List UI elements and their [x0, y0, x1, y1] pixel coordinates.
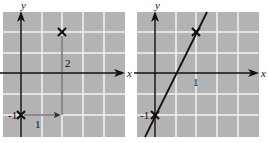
left-graph: x y -1 1 2: [0, 0, 132, 137]
right-x-axis-label: x: [260, 67, 266, 79]
right-y-intercept-label: -1: [140, 109, 149, 121]
figure-canvas: x y -1 1 2 x: [0, 0, 268, 143]
right-y-axis-label: y: [154, 0, 160, 11]
right-graph: x y 1 -1: [134, 0, 266, 137]
left-rise-label: 2: [65, 57, 71, 69]
left-x-axis-label: x: [126, 67, 132, 79]
left-run-label: 1: [35, 118, 41, 130]
left-y-axis-label: y: [20, 0, 26, 11]
right-x-tick-label: 1: [193, 76, 199, 88]
left-y-intercept-label: -1: [8, 109, 17, 121]
